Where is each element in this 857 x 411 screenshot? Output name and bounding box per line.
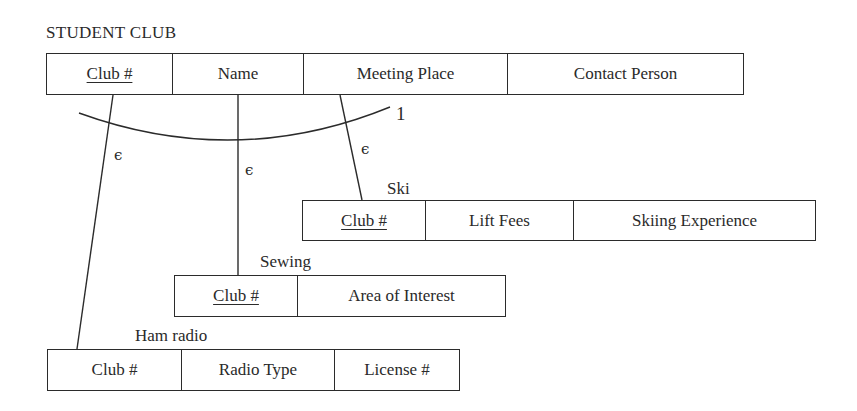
connector-ham-radio bbox=[77, 95, 113, 349]
attribute-club-number: Club # bbox=[175, 276, 298, 316]
diagram-title: STUDENT CLUB bbox=[46, 23, 176, 43]
membership-symbol-ski: ϵ bbox=[361, 140, 369, 158]
subtype-label-ham-radio: Ham radio bbox=[135, 326, 207, 346]
attribute-lift-fees: Lift Fees bbox=[426, 201, 574, 240]
entity-sewing: Club # Area of Interest bbox=[174, 275, 506, 317]
exclusive-arc bbox=[79, 107, 390, 140]
subtype-label-ski: Ski bbox=[387, 179, 410, 199]
attribute-contact-person: Contact Person bbox=[508, 54, 743, 94]
subtype-label-sewing: Sewing bbox=[260, 252, 311, 272]
membership-symbol-ham-radio: ϵ bbox=[114, 146, 122, 164]
connector-ski bbox=[340, 95, 362, 200]
entity-ski: Club # Lift Fees Skiing Experience bbox=[302, 200, 816, 241]
attribute-radio-type: Radio Type bbox=[182, 350, 335, 390]
attribute-skiing-experience: Skiing Experience bbox=[574, 201, 815, 240]
membership-symbol-sewing: ϵ bbox=[245, 161, 253, 179]
attribute-club-number: Club # bbox=[47, 54, 173, 94]
attribute-meeting-place: Meeting Place bbox=[304, 54, 508, 94]
entity-ham-radio: Club # Radio Type License # bbox=[47, 349, 460, 391]
attribute-license-number: License # bbox=[335, 350, 459, 390]
attribute-club-number: Club # bbox=[303, 201, 426, 240]
attribute-area-of-interest: Area of Interest bbox=[298, 276, 505, 316]
attribute-club-number: Club # bbox=[48, 350, 182, 390]
entity-student-club: Club # Name Meeting Place Contact Person bbox=[46, 53, 744, 95]
cardinality-label: 1 bbox=[396, 103, 406, 125]
attribute-name: Name bbox=[173, 54, 304, 94]
